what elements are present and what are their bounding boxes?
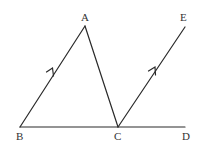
label-d: D	[182, 130, 190, 142]
label-c: C	[114, 130, 121, 142]
geometry-diagram: A B C D E	[0, 0, 201, 150]
segment-ba	[20, 26, 85, 127]
parallel-arrow-icon-ce	[149, 67, 156, 75]
segment-ce	[118, 27, 185, 127]
lines	[20, 26, 185, 127]
parallel-arrow-icon-ba	[47, 68, 54, 76]
label-b: B	[16, 130, 23, 142]
label-e: E	[180, 11, 187, 23]
label-a: A	[81, 11, 89, 23]
segment-ac	[85, 26, 118, 127]
